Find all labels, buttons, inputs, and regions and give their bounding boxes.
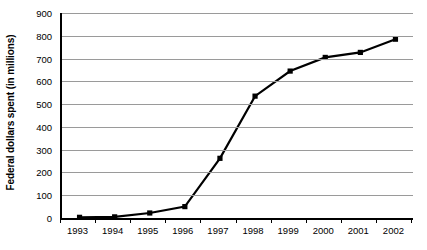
x-axis-tick-mark	[411, 218, 412, 223]
y-axis-tick-label: 0	[47, 213, 52, 224]
x-axis-tick-mark	[130, 218, 131, 223]
y-axis-tick-label: 100	[36, 190, 52, 201]
x-axis-tick-label-2001: 2001	[348, 225, 369, 236]
gridline	[62, 127, 413, 128]
x-axis-tick-mark	[341, 218, 342, 223]
x-axis-tick-mark	[236, 218, 237, 223]
y-axis-tick-label: 200	[36, 167, 52, 178]
data-point-1997	[217, 156, 222, 161]
x-axis-tick-label-1999: 1999	[278, 225, 299, 236]
y-axis-tick-label: 700	[36, 53, 52, 64]
data-point-1998	[252, 94, 257, 99]
y-axis-title: Federal dollars spent (in millions)	[0, 0, 22, 224]
gridline	[62, 172, 413, 173]
gridline	[62, 150, 413, 151]
x-axis-tick-label-2002: 2002	[383, 225, 404, 236]
gridline	[62, 81, 413, 82]
y-axis-tick-label: 900	[36, 8, 52, 19]
y-axis-title-text: Federal dollars spent (in millions)	[6, 34, 17, 190]
x-axis-tick-mark	[165, 218, 166, 223]
x-axis-tick-mark	[306, 218, 307, 223]
gridline	[62, 36, 413, 37]
y-axis-tick-label: 800	[36, 30, 52, 41]
x-axis-tick-label-1998: 1998	[242, 225, 263, 236]
x-axis-tick-mark	[271, 218, 272, 223]
x-axis-tick-label-1995: 1995	[137, 225, 158, 236]
x-axis-tick-label-1997: 1997	[207, 225, 228, 236]
x-axis-tick-mark	[60, 218, 61, 223]
y-axis-tick-label: 600	[36, 76, 52, 87]
data-point-1996	[182, 204, 187, 209]
line-chart: Federal dollars spent (in millions) 0100…	[0, 0, 427, 250]
y-axis-tick-label: 400	[36, 121, 52, 132]
x-axis-tick-label-1993: 1993	[67, 225, 88, 236]
gridline	[62, 195, 413, 196]
data-point-2001	[358, 50, 363, 55]
data-line-federal-dollars-spent	[80, 39, 396, 217]
x-axis-tick-label-1994: 1994	[102, 225, 123, 236]
x-axis-tick-mark	[376, 218, 377, 223]
x-axis: 1993199419951996199719981999200020012002	[60, 218, 413, 250]
y-axis-tick-label: 300	[36, 144, 52, 155]
data-point-2002	[393, 37, 398, 42]
gridline	[62, 13, 413, 14]
y-axis-tick-label: 500	[36, 99, 52, 110]
x-axis-tick-label-2000: 2000	[313, 225, 334, 236]
x-axis-tick-mark	[200, 218, 201, 223]
data-series-layer	[62, 13, 413, 218]
data-point-1995	[147, 210, 152, 215]
data-point-1999	[288, 68, 293, 73]
y-axis-tick-labels: 0100200300400500600700800900	[22, 0, 56, 250]
x-axis-tick-label-1996: 1996	[172, 225, 193, 236]
gridline	[62, 104, 413, 105]
plot-area	[60, 13, 413, 220]
gridline	[62, 59, 413, 60]
x-axis-tick-mark	[95, 218, 96, 223]
